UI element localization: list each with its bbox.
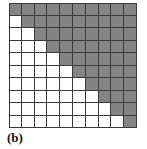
grid-cell — [99, 78, 112, 91]
grid-cell — [86, 66, 99, 79]
grid-cell — [111, 28, 124, 41]
grid-cell — [99, 3, 112, 16]
grid-cell — [60, 66, 73, 79]
grid-cell — [73, 53, 86, 66]
grid-cell — [86, 53, 99, 66]
grid-cell — [86, 91, 99, 104]
grid-cell — [124, 41, 137, 54]
grid-cell — [47, 66, 60, 79]
grid-cell — [22, 16, 35, 29]
grid-cell — [86, 28, 99, 41]
grid-cell — [99, 16, 112, 29]
grid-cell — [111, 78, 124, 91]
figure-caption: (b) — [7, 130, 23, 146]
grid-cell — [47, 28, 60, 41]
grid-cell — [124, 66, 137, 79]
grid-cell — [9, 3, 22, 16]
grid-cell — [22, 53, 35, 66]
grid-cell — [9, 91, 22, 104]
grid-cell — [111, 91, 124, 104]
grid-cell — [47, 116, 60, 129]
grid-cell — [9, 53, 22, 66]
grid-cell — [124, 78, 137, 91]
grid-container — [9, 3, 137, 128]
grid-cell — [22, 91, 35, 104]
grid-cell — [60, 116, 73, 129]
grid-cell — [124, 116, 137, 129]
grid-cell — [60, 91, 73, 104]
grid-cell — [86, 41, 99, 54]
grid-cell — [111, 3, 124, 16]
grid-cell — [35, 28, 48, 41]
grid-cell — [9, 16, 22, 29]
grid-cell — [47, 53, 60, 66]
grid-cell — [73, 78, 86, 91]
grid-cell — [73, 91, 86, 104]
grid-cell — [22, 3, 35, 16]
grid-cell — [22, 116, 35, 129]
grid-cell — [73, 28, 86, 41]
grid-cell — [99, 41, 112, 54]
grid-cell — [73, 116, 86, 129]
grid-cell — [35, 78, 48, 91]
grid-cell — [99, 103, 112, 116]
grid-cell — [86, 116, 99, 129]
grid-cell — [73, 3, 86, 16]
grid-cell — [35, 116, 48, 129]
grid-cell — [9, 66, 22, 79]
grid-cell — [73, 66, 86, 79]
grid-cell — [124, 28, 137, 41]
grid-cell — [86, 78, 99, 91]
grid-cell — [99, 116, 112, 129]
grid-cell — [9, 28, 22, 41]
grid-cell — [9, 103, 22, 116]
grid-cell — [124, 103, 137, 116]
grid-cell — [73, 16, 86, 29]
grid-cell — [35, 91, 48, 104]
grid-cell — [22, 66, 35, 79]
grid-cell — [73, 103, 86, 116]
grid-cell — [111, 16, 124, 29]
grid-cell — [73, 41, 86, 54]
grid-cell — [60, 53, 73, 66]
grid-cell — [22, 41, 35, 54]
grid-cell — [111, 103, 124, 116]
grid-cell — [47, 3, 60, 16]
grid-cell — [86, 16, 99, 29]
grid-cell — [47, 78, 60, 91]
grid-cell — [60, 3, 73, 16]
grid-cell — [22, 28, 35, 41]
figure-panel-b: (b) — [0, 0, 147, 149]
grid-cell — [111, 66, 124, 79]
grid-cell — [22, 78, 35, 91]
grid-cell — [86, 103, 99, 116]
grid-cell — [60, 16, 73, 29]
grid-cell — [99, 28, 112, 41]
grid-cell — [60, 103, 73, 116]
grid-cell — [9, 78, 22, 91]
grid-cell — [9, 116, 22, 129]
grid-cell — [47, 91, 60, 104]
grid-cell — [124, 3, 137, 16]
grid-cell — [99, 91, 112, 104]
grid-cell — [111, 41, 124, 54]
grid-cell — [99, 53, 112, 66]
grid-cell — [60, 28, 73, 41]
grid-cell — [22, 103, 35, 116]
grid-cell — [124, 16, 137, 29]
grid-cell — [35, 16, 48, 29]
grid-cell — [35, 3, 48, 16]
grid-cell — [124, 91, 137, 104]
grid-cell — [111, 53, 124, 66]
staircase-grid — [9, 3, 137, 128]
grid-cell — [47, 16, 60, 29]
grid-cell — [47, 103, 60, 116]
grid-cell — [86, 3, 99, 16]
grid-cell — [35, 103, 48, 116]
grid-cell — [35, 53, 48, 66]
grid-cell — [9, 41, 22, 54]
grid-cell — [99, 66, 112, 79]
grid-cell — [35, 66, 48, 79]
grid-cell — [60, 41, 73, 54]
grid-cell — [60, 78, 73, 91]
